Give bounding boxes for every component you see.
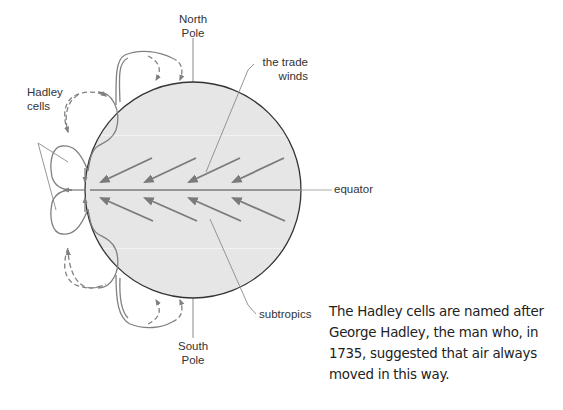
south-pole-label: South Pole — [174, 340, 212, 367]
equator-label: equator — [334, 183, 373, 197]
subtropics-label: subtropics — [259, 308, 311, 322]
north-pole-label: North Pole — [175, 13, 211, 40]
hadley-cells-label: Hadley cells — [27, 86, 63, 113]
caption-text: The Hadley cells are named after George … — [329, 301, 559, 385]
hadley-cells-diagram: North Pole the trade winds Hadley cells … — [0, 0, 563, 410]
trade-winds-label: the trade winds — [248, 56, 308, 83]
